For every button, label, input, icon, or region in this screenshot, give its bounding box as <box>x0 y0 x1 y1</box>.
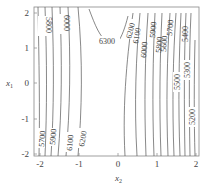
svg-text:5800: 5800 <box>44 17 53 33</box>
svg-text:6300: 6300 <box>99 37 115 46</box>
x-axis: -2 -1 0 1 2 x2 <box>36 153 198 184</box>
svg-text:5200: 5200 <box>188 109 197 125</box>
y-axis: 2 1 0 -1 -2 x1 <box>5 8 37 159</box>
svg-text:2: 2 <box>25 8 30 18</box>
svg-text:5400: 5400 <box>181 26 190 42</box>
svg-text:6000: 6000 <box>62 15 71 31</box>
contour-labels: 5800 6000 6300 6200 6100 6000 5900 5800 … <box>36 14 197 152</box>
svg-text:5600: 5600 <box>159 35 169 52</box>
svg-text:-1: -1 <box>22 114 30 124</box>
svg-text:-2: -2 <box>36 159 44 169</box>
svg-text:5500: 5500 <box>173 74 182 90</box>
svg-text:-2: -2 <box>22 149 30 159</box>
y-axis-label: x1 <box>5 78 13 89</box>
svg-text:6200: 6200 <box>77 130 89 147</box>
svg-text:5300: 5300 <box>183 62 192 78</box>
svg-text:5900: 5900 <box>48 128 58 145</box>
svg-text:6000: 6000 <box>139 41 149 58</box>
svg-text:1: 1 <box>25 43 30 53</box>
svg-text:0: 0 <box>25 78 30 88</box>
svg-text:5700: 5700 <box>37 130 47 147</box>
svg-text:0: 0 <box>116 159 121 169</box>
svg-text:6100: 6100 <box>65 134 75 151</box>
svg-text:-1: -1 <box>75 159 83 169</box>
x-axis-label: x2 <box>114 173 122 184</box>
contour-chart: 5800 6000 6300 6200 6100 6000 5900 5800 … <box>0 0 207 189</box>
svg-text:5900: 5900 <box>148 21 158 38</box>
svg-text:1: 1 <box>155 159 160 169</box>
svg-text:5700: 5700 <box>165 19 175 36</box>
svg-text:2: 2 <box>194 159 199 169</box>
